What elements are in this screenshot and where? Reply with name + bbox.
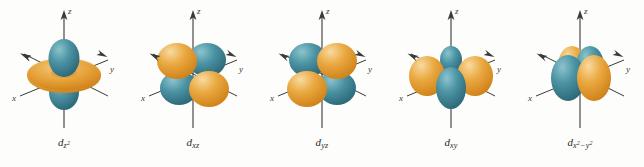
orbital-label-sub2-dx2y2: −y — [580, 141, 589, 150]
orbital-label-dxy: dxy — [387, 136, 515, 150]
axis-label-x-dxz: x — [140, 93, 145, 103]
axis-label-x-dyz: x — [269, 93, 274, 103]
lobe-orange-y — [577, 55, 611, 101]
lobe-orange-lower-right — [189, 71, 229, 107]
axis-label-z-dxz: z — [196, 6, 201, 16]
axis-label-z-dxy: z — [454, 6, 459, 16]
orbital-diagram-dyz: x y z — [258, 0, 386, 140]
lobe-orange-lower-left — [287, 71, 327, 107]
axis-label-z-dyz: z — [325, 6, 330, 16]
orbital-label-dxz: dxz — [129, 136, 257, 150]
axis-label-x-dxy: x — [398, 93, 403, 103]
orbital-cell-dyz: x y z dyz — [258, 0, 386, 167]
arrowhead-right-dx2y2 — [613, 50, 624, 57]
arrowhead-right-dz2 — [97, 50, 108, 57]
orbital-cell-dz2: x y z dz2 — [0, 0, 128, 167]
arrowhead-right-dxz — [226, 50, 237, 57]
orbital-label-sub-dxz: xz — [192, 141, 199, 150]
orbital-diagram-dx2y2: x y z — [516, 0, 644, 140]
orbital-label-dz2: dz2 — [0, 136, 128, 150]
axis-label-y-dyz: y — [367, 64, 372, 74]
axis-label-y-dxz: y — [238, 64, 243, 74]
axis-label-y-dz2: y — [109, 64, 114, 74]
orbital-label-sub-dyz: yz — [321, 141, 328, 150]
lobe-orange-upper-right — [317, 43, 357, 79]
lobe-teal-upper — [49, 39, 80, 77]
axis-label-x-dz2: x — [11, 93, 16, 103]
orbital-diagram-dz2: x y z — [0, 0, 128, 140]
orbital-cell-dxz: x y z dxz — [129, 0, 257, 167]
orbital-label-dyz: dyz — [258, 136, 386, 150]
orbital-label-sub-dxy: xy — [450, 141, 458, 150]
orbital-label-sup-dz2: 2 — [67, 140, 70, 146]
axis-label-z-dx2y2: z — [583, 6, 588, 16]
orbital-diagram-dxy: x y z — [387, 0, 515, 140]
orbital-diagram-dxz: x y z — [129, 0, 257, 140]
lobe-orange-upper-left — [157, 43, 197, 79]
axis-label-y-dxy: y — [496, 64, 501, 74]
orbital-cell-dxy: x y z dxy — [387, 0, 515, 167]
axis-label-y-dx2y2: y — [625, 64, 630, 74]
axis-label-x-dx2y2: x — [527, 93, 532, 103]
orbital-label-sup2-dx2y2: 2 — [589, 140, 592, 146]
axis-label-z-dz2: z — [67, 6, 72, 16]
orbital-label-dx2y2: dx2−y2 — [516, 136, 644, 150]
orbital-cell-dx2y2: x y z dx2−y2 — [516, 0, 644, 167]
d-orbital-figure: x y z dz2 — [0, 0, 644, 167]
lobe-teal-front — [436, 67, 466, 109]
arrowhead-right-dxy — [484, 50, 495, 57]
